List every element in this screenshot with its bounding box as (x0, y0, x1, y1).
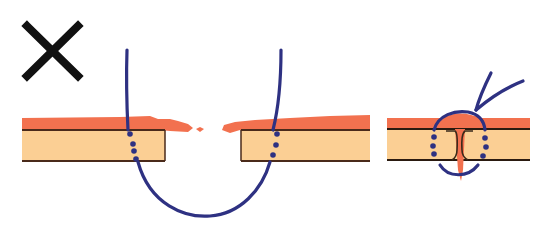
right-skin-block (387, 114, 530, 182)
incorrect-x-icon (27, 26, 78, 76)
middle-skin-block (222, 115, 370, 161)
wound-edge-fragment (196, 127, 204, 132)
left-dermis (22, 130, 165, 161)
right-epidermis (387, 118, 530, 129)
suture-diagram: Incorrect suture technique illustration (0, 0, 549, 241)
middle-dermis (241, 130, 370, 161)
left-skin-block (22, 116, 193, 161)
diagram-canvas (0, 0, 549, 241)
